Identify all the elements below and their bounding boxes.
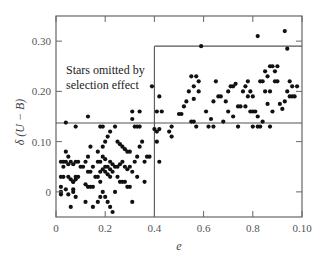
data-point — [135, 155, 139, 159]
data-point — [59, 192, 63, 196]
data-point — [265, 102, 269, 106]
data-point — [101, 145, 105, 149]
data-point — [64, 150, 68, 154]
data-point — [243, 84, 247, 88]
y-tick-label: 0.10 — [32, 136, 52, 148]
data-point — [184, 99, 188, 103]
data-point — [138, 109, 142, 113]
data-point — [270, 109, 274, 113]
data-point — [108, 205, 112, 209]
data-point — [258, 124, 262, 128]
data-point — [91, 185, 95, 189]
data-point — [66, 155, 70, 159]
data-point — [130, 170, 134, 174]
data-point — [128, 150, 132, 154]
y-axis-label: δ (U − B) — [13, 99, 27, 146]
data-point — [88, 145, 92, 149]
data-point — [246, 79, 250, 83]
data-point — [101, 190, 105, 194]
data-point — [81, 165, 85, 169]
data-point — [233, 82, 237, 86]
data-point — [290, 94, 294, 98]
data-point — [76, 160, 80, 164]
data-point — [192, 119, 196, 123]
data-point — [157, 160, 161, 164]
x-axis-ticks: 00.20.40.60.80.10 — [53, 16, 312, 234]
data-point — [209, 117, 213, 121]
data-point — [261, 79, 265, 83]
y-tick-label: 0.20 — [32, 85, 52, 97]
data-point — [263, 89, 267, 93]
data-point — [135, 175, 139, 179]
data-point — [221, 119, 225, 123]
x-tick-label: 0.4 — [148, 222, 162, 234]
x-tick-label: 0.8 — [246, 222, 260, 234]
data-point — [108, 129, 112, 133]
data-point — [179, 112, 183, 116]
data-point — [101, 124, 105, 128]
data-point — [270, 64, 274, 68]
data-point — [206, 124, 210, 128]
data-point — [283, 99, 287, 103]
data-point — [61, 165, 65, 169]
data-point — [138, 124, 142, 128]
data-point — [64, 120, 68, 124]
y-tick-label: 0 — [46, 186, 52, 198]
data-point — [66, 192, 70, 196]
data-point — [86, 155, 90, 159]
data-point — [96, 200, 100, 204]
data-point — [106, 200, 110, 204]
data-point — [189, 74, 193, 78]
data-point — [96, 175, 100, 179]
data-point — [273, 69, 277, 73]
data-point — [155, 140, 159, 144]
data-point — [246, 94, 250, 98]
data-point — [110, 162, 114, 166]
data-point — [199, 44, 203, 48]
data-point — [167, 129, 171, 133]
data-point — [226, 89, 230, 93]
data-point — [91, 205, 95, 209]
data-points — [59, 29, 299, 214]
data-point — [226, 109, 230, 113]
data-point — [103, 140, 107, 144]
data-point — [110, 210, 114, 214]
data-point — [142, 180, 146, 184]
data-point — [103, 195, 107, 199]
data-point — [140, 140, 144, 144]
data-point — [155, 109, 159, 113]
data-point — [261, 119, 265, 123]
data-point — [204, 109, 208, 113]
data-point — [98, 180, 102, 184]
data-point — [275, 79, 279, 83]
data-point — [160, 109, 164, 113]
data-point — [157, 127, 161, 131]
data-point — [251, 124, 255, 128]
data-point — [83, 160, 87, 164]
data-point — [295, 84, 299, 88]
data-point — [248, 89, 252, 93]
data-point — [147, 155, 151, 159]
data-point — [194, 74, 198, 78]
data-point — [241, 89, 245, 93]
data-point — [96, 160, 100, 164]
data-point — [83, 200, 87, 204]
data-point — [157, 94, 161, 98]
data-point — [194, 124, 198, 128]
data-point — [238, 104, 242, 108]
data-point — [142, 160, 146, 164]
scatter-chart: 00.20.40.60.80.10 00.100.200.30 Stars om… — [0, 0, 322, 256]
data-point — [115, 175, 119, 179]
data-point — [96, 150, 100, 154]
data-point — [253, 109, 257, 113]
data-point — [69, 205, 73, 209]
data-point — [74, 124, 78, 128]
data-point — [263, 69, 267, 73]
data-point — [59, 185, 63, 189]
data-point — [86, 114, 90, 118]
data-point — [251, 94, 255, 98]
data-point — [211, 124, 215, 128]
data-point — [278, 102, 282, 106]
data-point — [285, 89, 289, 93]
x-tick-label: 0.2 — [98, 222, 112, 234]
